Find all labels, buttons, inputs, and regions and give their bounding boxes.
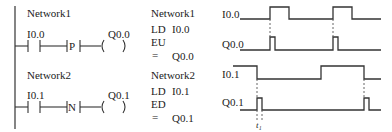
diagram-graphics (0, 0, 392, 132)
stl-n1-assign-op: = (152, 49, 158, 61)
contact-i0-0-label: I0.0 (27, 28, 44, 40)
contact-i0-1-label: I0.1 (27, 89, 44, 101)
ladder-network1-title: Network1 (27, 7, 71, 19)
waveform-i0-1 (233, 66, 381, 79)
stl-n2-assign-arg: Q0.1 (172, 112, 194, 124)
stl-network2-title: Network2 (151, 69, 195, 81)
waveform-q0-1 (240, 98, 381, 110)
p-edge-box-label: P (69, 40, 75, 52)
timing-label-i0-1: I0.1 (222, 68, 239, 80)
stl-n1-assign-arg: Q0.0 (172, 50, 194, 62)
coil-q0-0-left (102, 40, 104, 52)
waveform-q0-0 (240, 37, 381, 50)
stl-n1-eu-op: EU (151, 36, 166, 48)
timing-label-i0-0: I0.0 (222, 8, 239, 20)
waveform-i0-0 (240, 7, 381, 19)
coil-q0-0-right (123, 40, 125, 52)
stl-n2-assign-op: = (152, 111, 158, 123)
stl-n2-ld-op: LD (151, 85, 166, 97)
coil-q0-1-label: Q0.1 (108, 89, 130, 101)
stl-n1-ld-op: LD (151, 23, 166, 35)
stl-n2-ld-arg: I0.1 (172, 85, 189, 97)
coil-q0-0-label: Q0.0 (108, 28, 130, 40)
t1-annotation: t₁ (256, 119, 262, 131)
stl-n1-ld-arg: I0.0 (172, 23, 189, 35)
stl-network1-title: Network1 (151, 7, 195, 19)
ladder-network2-title: Network2 (27, 69, 71, 81)
stl-n2-ed-op: ED (151, 98, 166, 110)
timing-label-q0-1: Q0.1 (222, 96, 244, 108)
n-edge-box-label: N (68, 101, 76, 113)
timing-label-q0-0: Q0.0 (222, 38, 244, 50)
